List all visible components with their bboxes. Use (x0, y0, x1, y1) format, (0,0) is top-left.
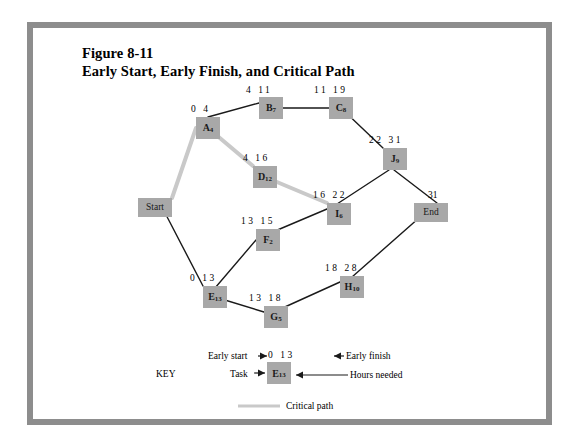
node-e[interactable]: E13 (203, 286, 227, 308)
node-c-label: C (336, 103, 343, 113)
node-e-label: E (208, 292, 215, 302)
legend-task-label: Task (230, 369, 248, 379)
node-end-label: End (423, 208, 438, 218)
node-h-duration: 10 (352, 286, 359, 293)
node-start[interactable]: Start (138, 198, 172, 217)
node-e-duration: 13 (215, 296, 222, 303)
legend-hours-needed-label: Hours needed (350, 370, 403, 380)
legend-sample-node-label: E (272, 368, 279, 379)
node-h-label: H (345, 282, 353, 292)
node-d-label: D (258, 172, 265, 182)
node-a[interactable]: A4 (196, 117, 220, 139)
legend-arrows (150, 345, 450, 425)
node-c[interactable]: C8 (329, 97, 353, 119)
node-times-h: 18 28 (325, 263, 359, 273)
node-f-duration: 2 (269, 239, 273, 246)
node-d[interactable]: D12 (253, 166, 277, 188)
node-g[interactable]: G5 (264, 306, 288, 328)
node-c-duration: 8 (343, 107, 347, 114)
figure-title-block: Figure 8-11 Early Start, Early Finish, a… (82, 45, 355, 80)
node-end[interactable]: End (414, 203, 448, 222)
node-b-duration: 7 (273, 107, 277, 114)
legend-key: KEY Early start Early finish Task Hours … (150, 345, 450, 425)
figure-number: Figure 8-11 (82, 45, 355, 63)
node-j-duration: 9 (396, 158, 400, 165)
node-j[interactable]: J9 (383, 148, 407, 170)
node-times-f: 13 15 (241, 216, 275, 226)
node-g-label: G (270, 312, 278, 322)
legend-sample-times: 0 13 (268, 350, 295, 360)
node-times-d: 4 16 (243, 153, 270, 163)
legend-critical-path-label: Critical path (286, 401, 333, 411)
node-times-c: 11 19 (314, 85, 348, 95)
node-times-i: 16 22 (313, 190, 347, 200)
node-h[interactable]: H10 (340, 276, 364, 298)
legend-early-finish-label: Early finish (346, 351, 391, 361)
node-start-label: Start (146, 203, 164, 213)
node-times-b: 4 11 (246, 85, 272, 95)
node-i-duration: 6 (339, 213, 343, 220)
node-times-j: 22 31 (369, 135, 403, 145)
node-times-a: 0 4 (191, 104, 210, 114)
node-times-e: 0 13 (190, 273, 217, 283)
page-title: Early Start, Early Finish, and Critical … (82, 63, 355, 81)
node-b[interactable]: B7 (259, 97, 283, 119)
legend-early-start-label: Early start (208, 351, 247, 361)
legend-key-label: KEY (156, 369, 176, 379)
legend-sample-node: E13 (267, 362, 291, 384)
node-times-g: 13 18 (249, 293, 283, 303)
node-a-duration: 4 (210, 127, 214, 134)
node-i[interactable]: I6 (327, 203, 351, 225)
figure-container: Figure 8-11 Early Start, Early Finish, a… (0, 0, 579, 447)
node-a-label: A (203, 123, 210, 133)
node-times-end: 31 (428, 190, 438, 200)
node-f[interactable]: F2 (256, 229, 280, 251)
legend-sample-node-duration: 13 (279, 371, 286, 379)
node-b-label: B (266, 103, 273, 113)
node-g-duration: 5 (278, 316, 282, 323)
node-d-duration: 12 (265, 176, 272, 183)
